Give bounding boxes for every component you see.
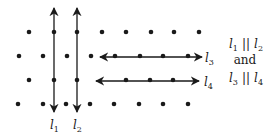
statement-l3: l3||l4 [229, 71, 263, 87]
grid-dot [161, 102, 166, 107]
label-l4: l4 [204, 75, 213, 91]
grid-dot [27, 30, 32, 35]
grid-dot [41, 102, 46, 107]
statement-and: and [234, 53, 257, 67]
grid-dot [65, 54, 70, 59]
label-l2: l2 [73, 118, 82, 134]
grid-dot [186, 102, 191, 107]
label-l3: l3 [205, 51, 214, 67]
dot-grid [16, 30, 202, 107]
grid-dot [137, 102, 142, 107]
line-labels: l1l2l3l4 [50, 51, 214, 134]
grid-dot [16, 102, 21, 107]
grid-dot [41, 54, 46, 59]
lines-group [54, 8, 202, 112]
grid-dot [124, 30, 129, 35]
grid-dot [100, 30, 105, 35]
parallel-statement: l1||l2 and l3||l4 [229, 37, 263, 87]
grid-dot [88, 102, 93, 107]
grid-dot [172, 30, 177, 35]
grid-dot [17, 54, 22, 59]
grid-dot [89, 54, 94, 59]
grid-dot [112, 102, 117, 107]
grid-dot [64, 102, 69, 107]
label-l1: l1 [50, 118, 59, 134]
statement-l1: l1||l2 [229, 37, 263, 53]
grid-dot [197, 30, 202, 35]
grid-dot [27, 78, 32, 83]
grid-dot [149, 30, 154, 35]
parallel-lines-diagram: l1l2l3l4 l1||l2 and l3||l4 [0, 0, 279, 140]
